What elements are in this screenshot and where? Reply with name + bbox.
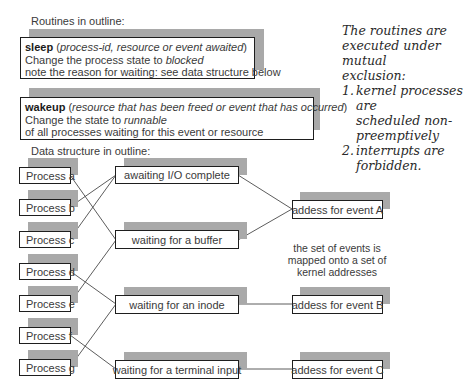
wait-terminal-box: waiting for a terminal input	[115, 360, 239, 379]
event-c-address-box: addess for event C	[292, 360, 383, 379]
process-a-box: Process a	[19, 167, 71, 184]
mapping-caption-line-2: mapped onto a set of	[282, 254, 392, 266]
event-b-address-box: addess for event B	[292, 295, 383, 314]
process-b-box: Process b	[19, 199, 71, 216]
wait-buffer-box: waiting for a buffer	[115, 230, 239, 249]
mapping-caption: the set of events is mapped onto a set o…	[282, 242, 392, 278]
process-g-box: Process g	[19, 359, 71, 376]
process-d-box: Process d	[19, 263, 71, 280]
edge-io-eventA	[238, 175, 292, 209]
process-e-box: Process e	[19, 295, 71, 312]
mapping-caption-line-3: kernel addresses	[282, 266, 392, 278]
event-a-address-box: addess for event A	[292, 200, 383, 219]
process-f-box: Process f	[19, 327, 71, 344]
process-c-box: Process c	[19, 231, 71, 248]
mapping-caption-line-1: the set of events is	[282, 242, 392, 254]
wait-inode-box: waiting for an inode	[115, 295, 239, 314]
wait-io-box: awaiting I/O complete	[115, 166, 239, 184]
